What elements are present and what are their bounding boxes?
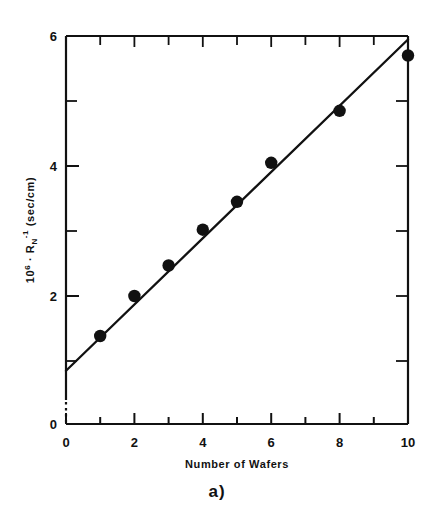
- yaxis-title-units: (sec/cm): [24, 177, 36, 226]
- data-point: [94, 330, 106, 342]
- xtick-label-10: 10: [401, 435, 415, 450]
- ytick-label-6: 6: [50, 29, 57, 44]
- data-point: [197, 224, 209, 236]
- xtick-label-4: 4: [199, 435, 207, 450]
- yaxis-title-base: 10: [24, 270, 36, 283]
- data-point: [402, 49, 414, 61]
- ytick-label-4: 4: [50, 159, 58, 174]
- data-point: [333, 105, 345, 117]
- figure-panel-a: 6 4 2 0 0 2 4 6 8 10 Number of Wafers 10…: [0, 0, 435, 517]
- yaxis-title-symbol: R: [24, 245, 36, 254]
- data-point: [265, 157, 277, 169]
- xtick-label-2: 2: [131, 435, 138, 450]
- data-point: [231, 196, 243, 208]
- xaxis-title: Number of Wafers: [185, 458, 289, 470]
- panel-label: a): [208, 482, 225, 501]
- yaxis-title-symbol-sup: -1: [21, 230, 30, 238]
- ytick-label-0: 0: [50, 417, 57, 432]
- ytick-label-2: 2: [50, 289, 57, 304]
- data-point: [162, 259, 174, 271]
- xtick-label-0: 0: [62, 435, 69, 450]
- yaxis-title-symbol-sub: N: [30, 238, 39, 244]
- data-point: [128, 290, 140, 302]
- xtick-label-8: 8: [336, 435, 343, 450]
- xtick-label-6: 6: [268, 435, 275, 450]
